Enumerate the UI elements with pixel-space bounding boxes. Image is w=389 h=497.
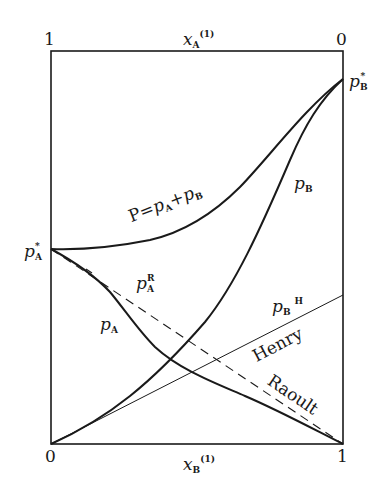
pa-star-label: pA* (24, 242, 40, 262)
bottom-axis-left-tick: 0 (45, 448, 56, 465)
pa-curve-label: pA (100, 316, 118, 335)
pb-star-label: pB* (349, 72, 365, 92)
bottom-axis-right-tick: 1 (337, 448, 348, 465)
bottom-axis-label: xB(1) (183, 455, 215, 475)
pb-henry-label: pBH (272, 297, 303, 317)
total-pressure-curve (51, 79, 343, 249)
pa-raoult-label: pAR (136, 274, 154, 294)
vapour-pressure-plot (0, 0, 389, 497)
top-axis-left-tick: 1 (44, 31, 55, 48)
top-axis-label: xA(1) (183, 30, 214, 50)
top-axis-right-tick: 0 (336, 31, 347, 48)
pa-curve (51, 249, 343, 444)
pb-curve-label: pB (294, 175, 313, 194)
